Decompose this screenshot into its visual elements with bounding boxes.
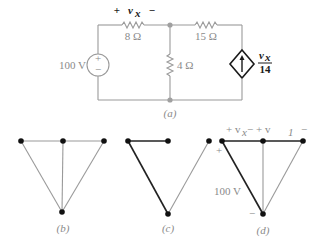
resistor-4-icon (167, 54, 173, 76)
d-end-minus: − (301, 123, 307, 135)
tree-edge (128, 141, 168, 214)
node (300, 138, 306, 144)
circuit-figure: + − 100 V 8 Ω + v x − 15 Ω 4 Ω v x 14 (0, 0, 326, 249)
node (18, 138, 24, 144)
node (165, 211, 171, 217)
tree-edge (222, 141, 263, 214)
graph-d: + v x − + v 1 − + − 100 V (d) (214, 123, 307, 237)
vx-sub: x (134, 7, 141, 19)
node (101, 138, 107, 144)
graph-c: (c) (125, 138, 212, 235)
node (60, 138, 66, 144)
edge (168, 141, 209, 214)
node (260, 138, 266, 144)
node-bottom (167, 97, 172, 102)
r2-label: 4 Ω (177, 59, 193, 71)
node (260, 211, 266, 217)
d-v1-sub: 1 (288, 126, 294, 138)
d-plus: + (216, 144, 222, 156)
graph-b: (b) (18, 138, 107, 235)
edge (62, 141, 104, 212)
edge (263, 141, 303, 214)
node (165, 138, 171, 144)
node (59, 209, 65, 215)
source-minus: − (95, 63, 101, 75)
d-mid: − + v (247, 123, 271, 135)
dep-num: v (259, 49, 264, 61)
edge (62, 141, 63, 212)
node (125, 138, 131, 144)
d-vx-plus: + v (226, 123, 241, 135)
d-source-label: 100 V (214, 185, 241, 197)
arrowhead-icon (240, 55, 245, 60)
node (219, 138, 225, 144)
vx-label: v (128, 4, 133, 16)
vx-plus: + (114, 4, 120, 16)
caption-c: (c) (162, 222, 175, 235)
circuit-a: + − 100 V 8 Ω + v x − 15 Ω 4 Ω v x 14 (59, 4, 272, 120)
r1-label: 8 Ω (125, 30, 141, 42)
dep-num-sub: x (264, 51, 271, 63)
caption-b: (b) (57, 222, 70, 235)
dep-den: 14 (260, 63, 272, 75)
edge (21, 141, 62, 212)
resistor-8-icon (122, 22, 144, 28)
d-minus: − (249, 207, 255, 219)
node-top (167, 22, 172, 27)
source-voltage-label: 100 V (59, 59, 86, 71)
vx-minus: − (149, 4, 155, 16)
node (206, 138, 212, 144)
resistor-15-icon (195, 22, 217, 28)
r3-label: 15 Ω (195, 30, 217, 42)
caption-a: (a) (164, 107, 177, 120)
caption-d: (d) (257, 224, 270, 237)
